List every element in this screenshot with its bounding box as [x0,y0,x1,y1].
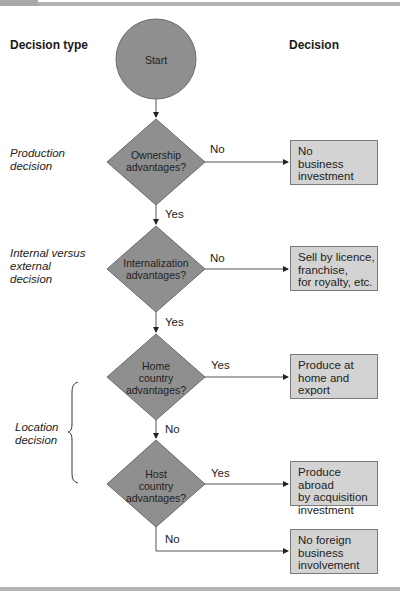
outcome-no-business-investment: No business investment [290,140,378,185]
question-ownership: Ownership advantages? [111,149,201,173]
outcome-produce-at-home-export: Produce at home and export [290,354,378,399]
edge-label-q2-yes: Yes [165,316,184,328]
question-host-country: Host country advantages? [111,468,201,504]
question-home-country: Home country advantages? [111,360,201,396]
header-decision: Decision [289,38,339,52]
edge-label-q3-yes: Yes [211,359,230,371]
edge-label-q3-no: No [165,423,180,435]
question-internalization: Internalization advantages? [106,257,206,281]
edge-label-q1-no: No [210,143,225,155]
decision-type-location: Location decision [15,421,58,447]
outcome-sell-by-licence: Sell by licence, franchise, for royalty,… [290,246,378,291]
edge-label-q4-yes: Yes [211,467,230,479]
start-label: Start [126,54,186,66]
outcome-no-foreign-involvement: No foreign business involvement [290,529,378,574]
edge-label-q1-yes: Yes [165,208,184,220]
edge-label-q4-no: No [165,533,180,545]
edge-label-q2-no: No [210,252,225,264]
header-decision-type: Decision type [10,38,88,52]
decision-type-internal-external: Internal versus external decision [10,247,85,286]
outcome-produce-abroad-acquisition: Produce abroad by acquisition investment [290,461,378,506]
location-brace-icon [68,382,78,483]
decision-type-production: Production decision [10,147,65,173]
